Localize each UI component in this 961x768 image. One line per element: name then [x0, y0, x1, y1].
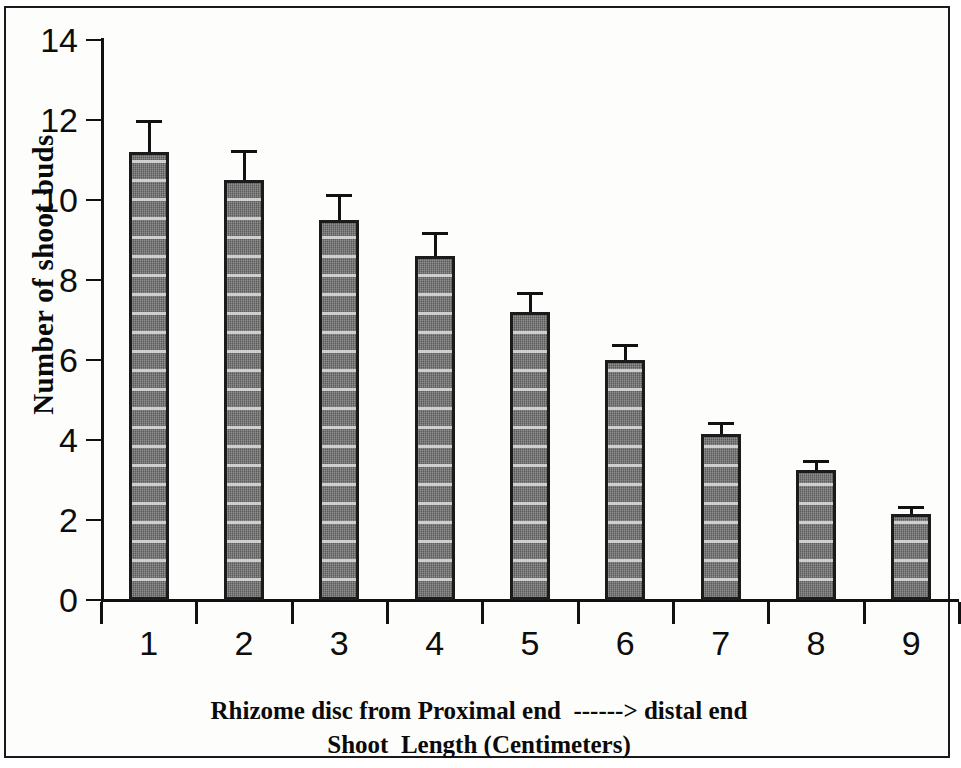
x-tick-mark	[672, 602, 675, 624]
chart-figure-frame: 02468101214 123456789 Number of shoot bu…	[4, 6, 950, 758]
x-tick-mark	[386, 602, 389, 624]
error-bar-cap	[517, 292, 543, 295]
x-tick-label: 6	[585, 624, 665, 663]
y-axis-title: Number of shoot buds	[27, 40, 60, 510]
bar	[224, 180, 264, 600]
bar	[891, 514, 931, 600]
y-tick-mark	[86, 439, 102, 441]
error-bar-cap	[422, 232, 448, 235]
bar	[510, 312, 550, 600]
error-bar-cap	[708, 422, 734, 425]
x-tick-mark	[195, 602, 198, 624]
x-tick-mark	[767, 602, 770, 624]
bar	[796, 470, 836, 600]
error-bar-stem	[434, 232, 437, 256]
bar	[319, 220, 359, 600]
x-tick-label: 7	[681, 624, 761, 663]
error-bar-cap	[612, 344, 638, 347]
bar	[605, 360, 645, 600]
bar	[129, 152, 169, 600]
x-tick-mark	[100, 602, 103, 624]
x-axis-title: Rhizome disc from Proximal end ------> d…	[6, 694, 952, 762]
x-tick-mark	[291, 602, 294, 624]
x-tick-mark	[481, 602, 484, 624]
x-tick-label: 4	[395, 624, 475, 663]
y-tick-mark	[86, 39, 102, 41]
y-tick-mark	[86, 119, 102, 121]
error-bar-cap	[136, 120, 162, 123]
x-tick-label: 8	[776, 624, 856, 663]
error-bar-stem	[243, 150, 246, 180]
x-tick-label: 1	[109, 624, 189, 663]
error-bar-cap	[803, 460, 829, 463]
y-tick-mark	[86, 279, 102, 281]
x-tick-label: 5	[490, 624, 570, 663]
x-tick-label: 3	[299, 624, 379, 663]
bar	[701, 434, 741, 600]
x-tick-mark	[863, 602, 866, 624]
y-tick-mark	[86, 599, 102, 601]
y-tick-label: 0	[30, 581, 78, 620]
x-tick-label: 9	[871, 624, 951, 663]
bar	[415, 256, 455, 600]
y-tick-mark	[86, 359, 102, 361]
x-tick-mark	[577, 602, 580, 624]
x-axis-title-line2: Shoot Length (Centimeters)	[6, 728, 952, 762]
y-tick-mark	[86, 199, 102, 201]
error-bar-cap	[326, 194, 352, 197]
plot-area	[101, 40, 959, 600]
error-bar-cap	[231, 150, 257, 153]
x-tick-label: 2	[204, 624, 284, 663]
y-tick-mark	[86, 519, 102, 521]
error-bar-cap	[898, 506, 924, 509]
error-bar-stem	[529, 292, 532, 312]
error-bar-stem	[338, 194, 341, 220]
error-bar-stem	[148, 120, 151, 152]
x-axis-title-line1: Rhizome disc from Proximal end ------> d…	[6, 694, 952, 728]
